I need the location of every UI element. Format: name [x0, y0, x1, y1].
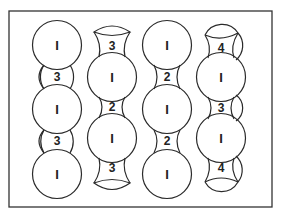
top-partial-circle	[205, 24, 238, 35]
circle-label: I	[165, 167, 169, 182]
circle-label: I	[165, 102, 169, 117]
column-3: I I I 2 2	[143, 21, 192, 199]
gap-label: 4	[218, 41, 225, 55]
gap-label: 3	[54, 134, 61, 148]
gap-label: 2	[109, 100, 116, 114]
gap-boundary-arc	[94, 32, 100, 57]
top-lens	[205, 33, 238, 38]
figure-frame	[9, 11, 272, 207]
column-1: I I I 3 3	[33, 21, 82, 199]
gap-boundary-arc	[205, 35, 209, 58]
gap-boundary-arc	[233, 33, 238, 58]
gap-boundary-arc	[236, 95, 243, 121]
gap-boundary-arc	[236, 33, 243, 60]
gap-boundary-arc	[124, 158, 130, 183]
gap-boundary-arc	[99, 97, 102, 118]
gap-boundary-arc	[124, 32, 130, 57]
gap-boundary-arc	[205, 158, 209, 182]
gap-boundary-arc	[177, 130, 180, 153]
gap-label: 2	[164, 70, 171, 84]
bottom-partial-circle	[205, 182, 238, 192]
circle-label: I	[219, 70, 223, 85]
gap-boundary-arc	[70, 65, 74, 89]
top-lens	[94, 26, 130, 36]
circle-label: I	[110, 70, 114, 85]
gap-label: 3	[109, 39, 116, 53]
circle-label: I	[55, 167, 59, 182]
gap-boundary-arc	[94, 158, 100, 183]
gap-label: 2	[164, 134, 171, 148]
gap-boundary-arc	[233, 158, 238, 182]
column-4: I I 4 3 4	[197, 24, 246, 191]
bottom-lens	[94, 180, 130, 190]
column-2: I I 3 2 3	[88, 26, 137, 190]
gap-boundary-arc	[70, 130, 73, 153]
circle-label: I	[55, 38, 59, 53]
circle-packing-diagram: I I I 3 3 I I 3 2 3 I I I 2	[0, 0, 282, 214]
gap-label: 3	[54, 70, 61, 84]
bottom-lens	[205, 178, 238, 182]
gap-label: 3	[218, 101, 225, 115]
gap-boundary-arc	[39, 65, 44, 89]
gap-boundary-arc	[154, 130, 157, 153]
gap-boundary-arc	[154, 65, 157, 89]
circle-label: I	[55, 102, 59, 117]
circle-label: I	[165, 38, 169, 53]
gap-boundary-arc	[39, 130, 44, 153]
gap-boundary-arc	[236, 156, 242, 182]
gap-label: 3	[109, 161, 116, 175]
gap-boundary-arc	[122, 97, 125, 118]
gap-boundary-arc	[177, 65, 180, 89]
gap-label: 4	[218, 161, 225, 175]
circle-label: I	[110, 131, 114, 146]
circle-label: I	[219, 131, 223, 146]
